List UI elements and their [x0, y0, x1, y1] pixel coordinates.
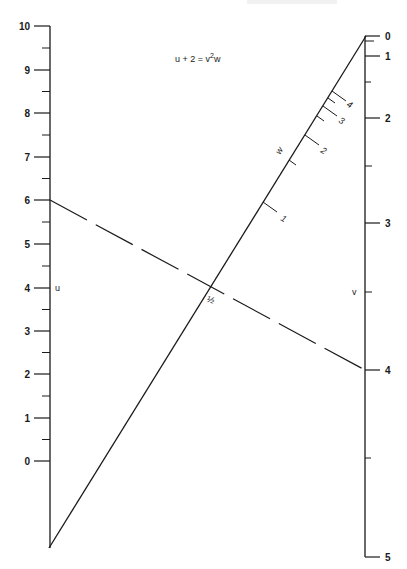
u-tick-label: 5	[24, 239, 30, 250]
u-tick-label: 10	[19, 21, 31, 32]
w-minor-tick	[328, 98, 335, 103]
u-scale: 109876543210 u	[19, 21, 60, 548]
u-tick-label: 3	[24, 326, 30, 337]
v-scale-label: v	[352, 287, 357, 297]
example-isopleth-dashed-line	[50, 200, 365, 370]
u-tick-label: 0	[24, 456, 30, 467]
u-tick-label: 8	[24, 108, 30, 119]
u-tick-label: 7	[24, 152, 30, 163]
w-intersection-label: ½	[206, 294, 216, 306]
v-tick-label: 5	[385, 552, 391, 563]
u-tick-label: 4	[24, 283, 30, 294]
w-scale-label: w	[273, 145, 285, 156]
v-tick-label: 1	[385, 51, 391, 62]
w-axis-line	[49, 36, 366, 548]
v-tick-label: 4	[385, 365, 391, 376]
w-tick-4	[332, 91, 346, 101]
v-major-ticks: 012345	[365, 31, 391, 563]
equation-title: u + 2 = v2w	[175, 52, 221, 64]
v-scale: 012345 v	[352, 31, 391, 563]
nomogram: u + 2 = v2w 109876543210 u 012345 v 1 2 …	[0, 0, 407, 569]
w-label-4: 4	[345, 99, 354, 110]
u-tick-label: 1	[24, 413, 30, 424]
w-label-1: 1	[279, 213, 288, 224]
u-tick-label: 2	[24, 369, 30, 380]
w-label-2: 2	[318, 145, 328, 157]
v-tick-label: 3	[385, 218, 391, 229]
w-tick-2	[305, 135, 319, 145]
u-scale-label: u	[55, 283, 60, 293]
u-major-ticks: 109876543210	[19, 21, 50, 467]
w-label-3: 3	[337, 115, 346, 126]
v-tick-label: 2	[385, 113, 391, 124]
v-tick-label: 0	[385, 31, 391, 42]
w-scale: 1 2 3 4 w ½	[49, 36, 366, 548]
u-tick-label: 6	[24, 195, 30, 206]
w-tick-1	[263, 202, 277, 212]
u-tick-label: 9	[24, 65, 30, 76]
w-tick-3	[323, 106, 337, 116]
w-minor-tick	[289, 160, 296, 165]
w-minor-tick	[317, 116, 324, 121]
